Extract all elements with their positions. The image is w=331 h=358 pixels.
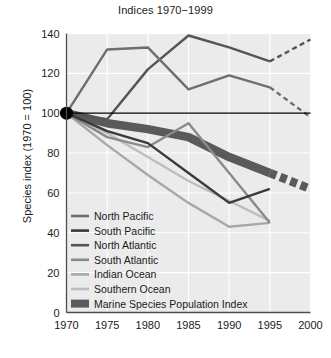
y-axis-ticks: 020406080100120140 — [41, 28, 59, 319]
x-tick-label: 2000 — [298, 319, 322, 331]
y-tick-label: 80 — [47, 147, 59, 159]
y-tick-label: 40 — [47, 227, 59, 239]
legend-label: North Atlantic — [94, 239, 156, 251]
x-axis-ticks: 1970197519801985199019952000 — [54, 319, 322, 331]
y-tick-label: 100 — [41, 107, 59, 119]
y-tick-label: 20 — [47, 267, 59, 279]
legend-label: South Pacific — [94, 225, 155, 237]
plot-canvas: 020406080100120140 197019751980198519901… — [0, 0, 331, 358]
x-tick-label: 1980 — [136, 319, 160, 331]
x-tick-label: 1990 — [217, 319, 241, 331]
chart-figure: Indices 1970−1999 Species index (1970 = … — [0, 0, 331, 358]
y-tick-label: 0 — [53, 307, 59, 319]
legend-label: Southern Ocean — [94, 283, 171, 295]
x-tick-label: 1985 — [176, 319, 200, 331]
legend-label: Indian Ocean — [94, 268, 157, 280]
legend-label: South Atlantic — [94, 254, 158, 266]
legend-label: Marine Species Population Index — [94, 298, 248, 310]
y-tick-label: 60 — [47, 187, 59, 199]
x-tick-label: 1995 — [258, 319, 282, 331]
x-tick-label: 1975 — [95, 319, 119, 331]
y-tick-label: 120 — [41, 67, 59, 79]
x-tick-label: 1970 — [54, 319, 78, 331]
legend-label: North Pacific — [94, 210, 154, 222]
y-tick-label: 140 — [41, 28, 59, 40]
